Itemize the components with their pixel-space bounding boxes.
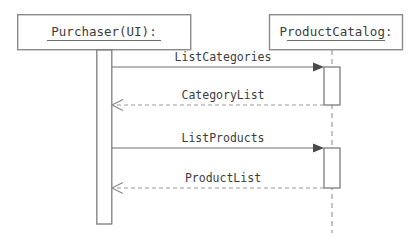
sequence-diagram-svg: Purchaser(UI): ProductCatalog: ListCateg… [0, 0, 417, 236]
participant-purchaser[interactable]: Purchaser(UI): [18, 15, 191, 224]
activation-bar-productcatalog-1[interactable] [324, 67, 340, 105]
message-list-products[interactable]: ListProducts [112, 131, 324, 153]
activation-bar-productcatalog-2[interactable] [324, 148, 340, 188]
arrowhead-filled-list-products [313, 144, 324, 153]
message-category-list[interactable]: CategoryList [112, 88, 324, 111]
message-list-categories[interactable]: ListCategories [112, 50, 324, 72]
activation-bar-purchaser[interactable] [97, 50, 112, 224]
message-label-product-list: ProductList [185, 171, 261, 185]
sequence-diagram-canvas: Purchaser(UI): ProductCatalog: ListCateg… [0, 0, 417, 236]
message-label-list-categories: ListCategories [175, 50, 272, 64]
arrowhead-filled-list-categories [313, 63, 324, 72]
participant-label-productcatalog: ProductCatalog: [280, 24, 393, 39]
message-product-list[interactable]: ProductList [112, 171, 324, 194]
message-label-list-products: ListProducts [181, 131, 264, 145]
message-label-category-list: CategoryList [181, 88, 264, 102]
participant-label-purchaser: Purchaser(UI): [51, 24, 156, 39]
participant-productcatalog[interactable]: ProductCatalog: [270, 15, 403, 233]
